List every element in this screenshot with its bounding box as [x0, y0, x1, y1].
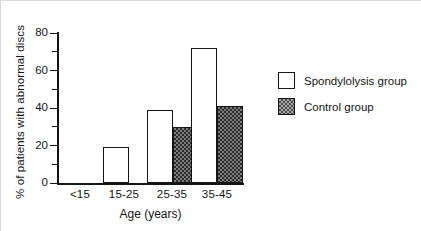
y-tick-30: [52, 126, 57, 127]
y-axis-line: [57, 32, 59, 184]
legend-label-spondylolysis: Spondylolysis group: [304, 75, 407, 87]
open-square-swatch-icon: [278, 72, 295, 89]
y-tick-label-20: 20: [2, 139, 48, 151]
y-tick-50: [52, 89, 57, 90]
bar-spondylolysis-35-45: [191, 48, 217, 183]
y-tick-label-80: 80: [2, 26, 48, 38]
bar-spondylolysis-25-35: [147, 110, 173, 183]
y-tick-label-0: 0: [2, 176, 48, 188]
y-tick-60: [50, 70, 57, 71]
y-tick-0: [50, 183, 57, 184]
y-tick-70: [52, 51, 57, 52]
x-axis-line: [57, 183, 244, 185]
y-tick-label-40: 40: [2, 101, 48, 113]
y-tick-40: [50, 108, 57, 109]
legend-item-spondylolysis: Spondylolysis group: [278, 72, 407, 89]
y-tick-label-60: 60: [2, 64, 48, 76]
legend-label-control: Control group: [304, 101, 374, 113]
y-tick-80: [50, 33, 57, 34]
bar-control-35-45: [217, 106, 243, 183]
y-tick-10: [52, 164, 57, 165]
legend-item-control: Control group: [278, 98, 407, 115]
hatched-square-swatch-icon: [278, 98, 295, 115]
y-axis-tick-labels: 80 60 40 20 0: [0, 0, 48, 231]
x-tick-label-35-45: 35-45: [187, 188, 247, 200]
x-axis-title: Age (years): [57, 207, 244, 221]
bar-chart-plot-area: % of patients with abnormal discs 80 60 …: [0, 0, 260, 231]
bar-spondylolysis-15-25: [103, 147, 129, 183]
chart-legend: Spondylolysis group Control group: [278, 72, 407, 124]
y-tick-20: [50, 145, 57, 146]
